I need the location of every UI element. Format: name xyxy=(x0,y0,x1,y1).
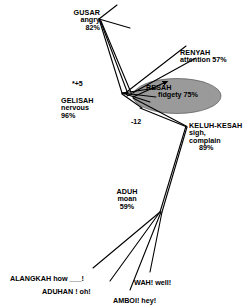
node-pct-gelisah: 96% xyxy=(61,112,111,119)
node-label-renyah[interactable]: RENYAH attention 57% xyxy=(180,49,252,64)
edge-aduh-wah xyxy=(150,212,162,272)
node-gloss-wah: well! xyxy=(155,278,171,287)
node-label-aduh[interactable]: ADUH moan 59% xyxy=(109,188,145,210)
edge-keluhkesah-aduh-2 xyxy=(162,127,187,212)
node-label-aduhan[interactable]: ADUHAN ! oh! xyxy=(42,281,91,297)
node-gloss-amboi: hey! xyxy=(141,296,156,305)
node-pct-gusar: 82% xyxy=(60,24,100,31)
node-gloss-resah: fidgety 75% xyxy=(146,91,210,98)
node-pct-aduh: 59% xyxy=(109,203,145,210)
node-title-amboi: AMBOI! xyxy=(113,296,139,305)
edge-aduh-aduhan xyxy=(110,212,160,281)
annotation-plus-five: *+5 xyxy=(72,80,83,87)
node-title-wah: WAH! xyxy=(134,278,153,287)
edge-keluhkesah-aduh xyxy=(160,126,186,212)
node-pct-keluh-kesah: 89% xyxy=(189,144,251,151)
edge-gusar-gelisah xyxy=(99,19,122,93)
node-label-amboi[interactable]: AMBOI! hey! xyxy=(113,290,156,306)
node-label-resah[interactable]: RESAH fidgety 75% xyxy=(146,84,210,99)
edge-gusar-cluster xyxy=(101,21,132,95)
node-label-gusar[interactable]: GUSAR angry 82% xyxy=(60,9,100,31)
edge-gusar-resah xyxy=(100,20,128,94)
node-gloss-renyah: attention 57% xyxy=(180,56,252,63)
node-label-keluh-kesah[interactable]: KELUH-KESAH sigh, complain 89% xyxy=(189,122,251,151)
node-label-gelisah[interactable]: GELISAH nervous 96% xyxy=(61,97,111,119)
node-label-wah[interactable]: WAH! well! xyxy=(134,272,171,288)
node-title-aduhan: ADUHAN xyxy=(42,287,73,296)
node-gloss-aduhan: ! oh! xyxy=(75,287,91,296)
edge-gusar-branch-a xyxy=(99,5,117,19)
annotation-minus-twelve: -12 xyxy=(131,118,141,125)
